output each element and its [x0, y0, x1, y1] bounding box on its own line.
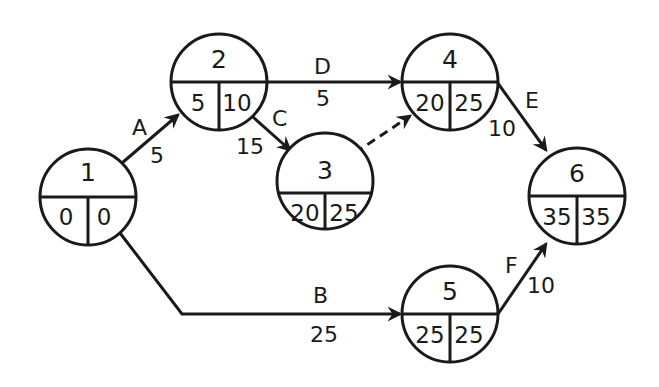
node-4: 4 20 25 — [402, 34, 498, 130]
node-2-id: 2 — [211, 45, 227, 74]
node-6-latest: 35 — [581, 204, 610, 230]
edge-c-duration: 15 — [236, 134, 264, 159]
edge-dummy — [355, 116, 410, 153]
node-1-latest: 0 — [97, 204, 112, 230]
edge-f-duration: 10 — [527, 273, 555, 298]
node-1-earliest: 0 — [59, 204, 74, 230]
edge-b: B 25 — [120, 233, 400, 347]
node-6-id: 6 — [569, 159, 585, 188]
node-3-id: 3 — [317, 156, 333, 185]
edge-d-duration: 5 — [316, 86, 330, 111]
node-5-earliest: 25 — [415, 322, 444, 348]
edge-b-duration: 25 — [310, 322, 338, 347]
edge-b-arrow — [120, 233, 400, 314]
node-4-latest: 25 — [454, 90, 483, 116]
node-3-latest: 25 — [329, 200, 358, 226]
node-1: 1 0 0 — [40, 149, 136, 245]
node-5: 5 25 25 — [402, 266, 498, 362]
node-3-earliest: 20 — [290, 200, 319, 226]
edge-f-activity: F — [505, 253, 518, 278]
edge-e-duration: 10 — [488, 116, 516, 141]
node-5-id: 5 — [442, 277, 458, 306]
node-6-earliest: 35 — [542, 204, 571, 230]
edge-a-duration: 5 — [150, 143, 164, 168]
edge-dummy-arrow — [355, 116, 410, 153]
edge-f: F 10 — [498, 244, 555, 314]
edge-d-activity: D — [314, 54, 331, 79]
node-1-id: 1 — [80, 158, 96, 187]
edge-b-activity: B — [313, 283, 328, 308]
node-2: 2 5 10 — [171, 34, 267, 130]
edge-a: A 5 — [122, 115, 178, 168]
node-4-id: 4 — [442, 45, 458, 74]
node-3: 3 20 25 — [277, 133, 373, 229]
node-6: 6 35 35 — [529, 148, 625, 244]
node-4-earliest: 20 — [415, 90, 444, 116]
edge-d: D 5 — [267, 54, 400, 111]
node-2-latest: 10 — [222, 90, 251, 116]
edge-a-activity: A — [132, 115, 147, 140]
node-2-earliest: 5 — [191, 90, 206, 116]
edge-e-activity: E — [525, 88, 539, 113]
node-5-latest: 25 — [454, 322, 483, 348]
network-diagram: A 5 D 5 C 15 E 10 B 25 F 10 1 — [0, 0, 659, 387]
edge-c-activity: C — [272, 106, 287, 131]
